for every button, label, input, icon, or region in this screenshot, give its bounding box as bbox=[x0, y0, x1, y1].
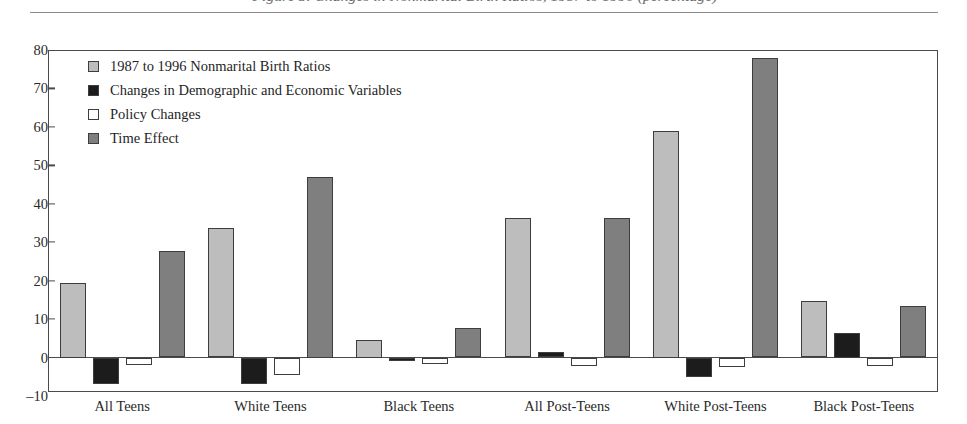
bar bbox=[801, 301, 827, 358]
bar bbox=[208, 228, 234, 357]
y-axis-tick-mark bbox=[48, 242, 55, 243]
legend-swatch-icon bbox=[88, 133, 99, 144]
y-axis-tick-mark bbox=[48, 126, 55, 127]
bar bbox=[834, 333, 860, 358]
bar bbox=[604, 218, 630, 358]
bar bbox=[60, 283, 86, 358]
legend-item-label: 1987 to 1996 Nonmarital Birth Ratios bbox=[110, 59, 330, 74]
x-axis-category-label: White Teens bbox=[234, 398, 306, 415]
legend-swatch-icon bbox=[88, 109, 99, 120]
x-axis-category-label: White Post-Teens bbox=[664, 398, 766, 415]
bar bbox=[126, 358, 152, 366]
bar bbox=[538, 352, 564, 357]
x-axis-category-label: Black Teens bbox=[383, 398, 454, 415]
bar bbox=[900, 306, 926, 357]
bar bbox=[307, 177, 333, 358]
bar bbox=[455, 328, 481, 358]
y-axis-tick-mark bbox=[48, 203, 55, 204]
bar bbox=[93, 358, 119, 385]
bar bbox=[752, 58, 778, 357]
legend-item-label: Changes in Demographic and Economic Vari… bbox=[110, 83, 402, 98]
bar-chart: –1001020304050607080 1987 to 1996 Nonmar… bbox=[0, 0, 967, 424]
bar bbox=[241, 358, 267, 384]
y-axis-tick-mark bbox=[48, 318, 55, 319]
legend-swatch-icon bbox=[88, 61, 99, 72]
bar bbox=[867, 358, 893, 366]
x-axis-category-label: All Teens bbox=[94, 398, 150, 415]
bar bbox=[571, 358, 597, 366]
legend-item: Time Effect bbox=[88, 126, 518, 150]
chart-legend: 1987 to 1996 Nonmarital Birth RatiosChan… bbox=[88, 54, 518, 150]
bar bbox=[274, 358, 300, 375]
legend-item: 1987 to 1996 Nonmarital Birth Ratios bbox=[88, 54, 518, 78]
bar bbox=[422, 358, 448, 364]
legend-item: Changes in Demographic and Economic Vari… bbox=[88, 78, 518, 102]
bar bbox=[719, 358, 745, 368]
bar bbox=[505, 218, 531, 357]
x-axis-category-label: All Post-Teens bbox=[524, 398, 610, 415]
legend-item-label: Policy Changes bbox=[110, 107, 201, 122]
bar bbox=[356, 340, 382, 357]
bar bbox=[686, 358, 712, 377]
legend-item-label: Time Effect bbox=[110, 131, 179, 146]
y-axis-tick-mark bbox=[48, 88, 55, 89]
bar bbox=[653, 131, 679, 358]
y-axis-tick-mark bbox=[48, 280, 55, 281]
y-axis-tick-mark bbox=[48, 165, 55, 166]
legend-swatch-icon bbox=[88, 85, 99, 96]
bar bbox=[159, 251, 185, 357]
bar bbox=[389, 358, 415, 362]
legend-item: Policy Changes bbox=[88, 102, 518, 126]
x-axis-category-label: Black Post-Teens bbox=[813, 398, 914, 415]
